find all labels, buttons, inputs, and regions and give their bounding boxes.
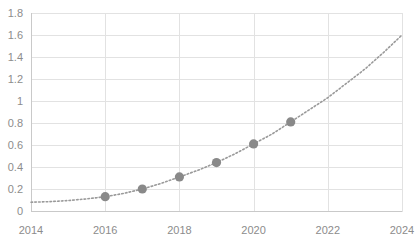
chart-container: 00.20.40.60.811.21.41.61.8 2014201620182…: [0, 0, 419, 249]
data-point-marker: [286, 117, 295, 126]
y-axis-tick-label: 0: [17, 205, 23, 217]
trend-curve-series: [31, 35, 402, 202]
data-point-marker: [175, 172, 184, 181]
y-axis-tick-label: 1.4: [8, 51, 23, 63]
plot-area-border: [32, 14, 403, 212]
y-axis-tick-label: 0.8: [8, 117, 23, 129]
y-axis-tick-label: 1.6: [8, 29, 23, 41]
x-axis-tick-label: 2016: [93, 224, 117, 236]
x-axis-tick-label: 2020: [241, 224, 265, 236]
vertical-gridlines: [32, 13, 403, 211]
x-axis-tick-label: 2022: [316, 224, 340, 236]
y-axis-tick-label: 1.8: [8, 7, 23, 19]
x-axis-tick-label: 2018: [167, 224, 191, 236]
y-axis-tick-label: 0.2: [8, 183, 23, 195]
x-axis-tick-label: 2014: [19, 224, 43, 236]
horizontal-gridlines: [31, 14, 402, 212]
y-axis-tick-label: 1.2: [8, 73, 23, 85]
y-axis-tick-labels: 00.20.40.60.811.21.41.61.8: [8, 7, 23, 217]
x-axis-tick-labels: 201420162018202020222024: [19, 224, 414, 236]
data-point-marker: [101, 192, 110, 201]
x-axis-tick-label: 2024: [390, 224, 414, 236]
data-point-marker: [249, 139, 258, 148]
data-point-marker: [138, 184, 147, 193]
trend-line: [31, 35, 402, 202]
y-axis-tick-label: 0.4: [8, 161, 23, 173]
y-axis-tick-label: 0.6: [8, 139, 23, 151]
y-axis-tick-label: 1: [17, 95, 23, 107]
line-scatter-chart: 00.20.40.60.811.21.41.61.8 2014201620182…: [0, 0, 419, 249]
data-point-marker: [212, 158, 221, 167]
data-point-markers: [101, 117, 296, 201]
